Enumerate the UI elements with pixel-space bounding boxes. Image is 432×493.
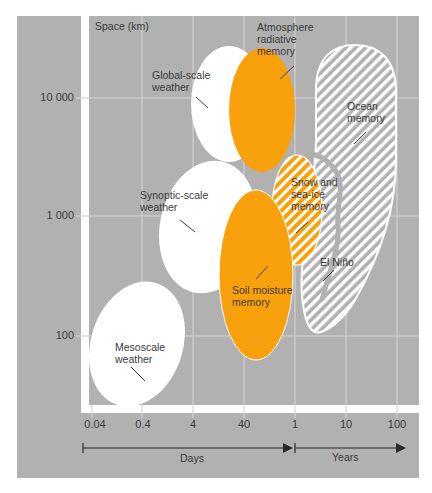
x-tick-label: 1 xyxy=(275,418,315,430)
x-tick-label: 40 xyxy=(224,418,264,430)
soil-moisture-memory-label: Soil moisturememory xyxy=(232,284,293,308)
el-nino-label: El Niño xyxy=(320,256,354,268)
years-label: Years xyxy=(332,451,358,463)
snow-seaice-memory-label: Snow andsea-icememory xyxy=(291,176,338,212)
mesoscale-weather-label: Mesoscaleweather xyxy=(115,341,165,365)
days-label: Days xyxy=(180,452,204,464)
ocean-memory-label: Oceanmemory xyxy=(347,100,385,124)
y-tick-label: 10 000 xyxy=(12,91,74,103)
diagram-canvas: Space (km) 10 000 1 000 100 0.04 0.4 4 4… xyxy=(0,0,432,493)
synoptic-scale-weather-label: Synoptic-scaleweather xyxy=(140,189,208,213)
y-tick-label: 100 xyxy=(12,329,74,341)
diagram-svg xyxy=(0,0,432,493)
x-tick-label: 10 xyxy=(326,418,366,430)
y-tick-label: 1 000 xyxy=(12,209,74,221)
soil-moisture-memory-region xyxy=(219,190,293,360)
y-axis-strip xyxy=(81,16,89,413)
x-tick-label: 0.04 xyxy=(75,418,115,430)
atmosphere-memory-label: Atmosphereradiativememory xyxy=(257,21,314,57)
y-axis-title: Space (km) xyxy=(95,20,149,32)
global-scale-weather-label: Global-scaleweather xyxy=(152,69,210,93)
x-tick-label: 4 xyxy=(173,418,213,430)
x-tick-label: 0.4 xyxy=(123,418,163,430)
x-tick-label: 100 xyxy=(377,418,417,430)
atmosphere-memory-region xyxy=(229,48,295,172)
